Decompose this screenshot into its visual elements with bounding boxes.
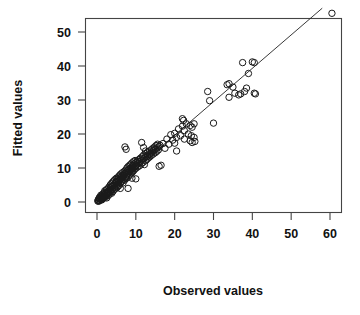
y-tick-label-30: 30	[57, 94, 71, 108]
scatter-plot-figure: 0102030405060 01020304050 Observed value…	[0, 0, 360, 315]
figure-background	[0, 0, 360, 315]
y-tick-label-20: 20	[57, 128, 71, 142]
y-tick-label-0: 0	[64, 196, 71, 210]
x-axis-title: Observed values	[163, 284, 263, 298]
x-tick-label-20: 20	[168, 227, 182, 241]
y-axis-title: Fitted values	[11, 80, 25, 156]
x-tick-label-40: 40	[245, 227, 259, 241]
x-tick-label-0: 0	[94, 227, 101, 241]
x-tick-label-30: 30	[207, 227, 221, 241]
y-tick-label-40: 40	[57, 60, 71, 74]
x-tick-label-50: 50	[284, 227, 298, 241]
y-tick-label-10: 10	[57, 162, 71, 176]
x-tick-label-10: 10	[129, 227, 143, 241]
y-tick-label-50: 50	[57, 26, 71, 40]
x-tick-label-60: 60	[323, 227, 337, 241]
